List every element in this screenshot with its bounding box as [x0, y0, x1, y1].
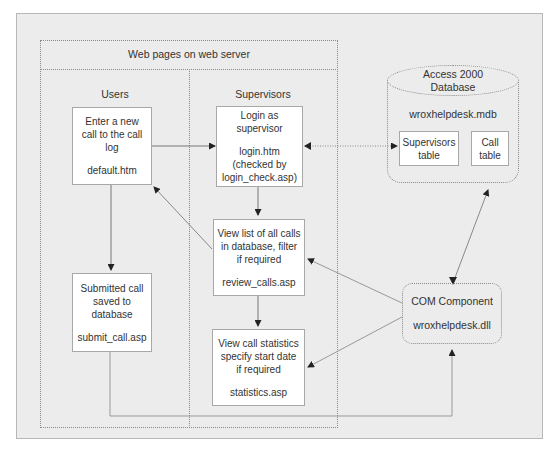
database-file: wroxhelpdesk.mdb — [387, 108, 519, 121]
supervisors-table-line-1: Supervisors — [403, 136, 456, 149]
database-title-line-2: Database — [387, 81, 519, 94]
database-title-line-1: Access 2000 — [387, 68, 519, 81]
call-table-line-1: Call — [481, 136, 498, 149]
login-htm-label: login.htm — [239, 145, 280, 158]
review-calls-asp-label: review_calls.asp — [222, 276, 295, 289]
com-component-title: COM Component — [402, 295, 502, 308]
submitted-call-line-1: Submitted call — [81, 282, 144, 295]
statistics-line-3: if required — [236, 363, 280, 376]
com-component-box — [402, 283, 502, 344]
enter-call-line-1: Enter a new — [85, 115, 138, 128]
call-table-line-2: table — [479, 149, 501, 162]
submit-call-asp-label: submit_call.asp — [78, 331, 147, 344]
login-line-1: Login as — [241, 109, 279, 122]
enter-call-line-2: call to the call — [82, 128, 143, 141]
supervisors-table-box: Supervisors table — [399, 131, 459, 166]
database-title: Access 2000 Database — [387, 68, 519, 94]
enter-call-line-3: log — [105, 141, 118, 154]
default-htm-label: default.htm — [87, 164, 136, 177]
call-table-box: Call table — [471, 131, 509, 166]
review-calls-box: View list of all calls in database, filt… — [213, 219, 305, 296]
statistics-asp-label: statistics.asp — [230, 386, 287, 399]
review-line-2: in database, filter — [221, 240, 297, 253]
review-line-1: View list of all calls — [217, 227, 300, 240]
login-box: Login as supervisor login.htm (checked b… — [216, 106, 303, 187]
login-note-line-1: (checked by — [233, 158, 287, 171]
enter-call-box: Enter a new call to the call log default… — [72, 107, 152, 185]
supervisors-table-line-2: table — [418, 149, 440, 162]
login-line-2: supervisor — [236, 122, 282, 135]
com-component-file: wroxhelpdesk.dll — [402, 319, 502, 332]
statistics-line-2: specify start date — [221, 350, 297, 363]
statistics-line-1: View call statistics — [218, 337, 298, 350]
login-note-line-2: login_check.asp) — [222, 171, 297, 184]
submitted-call-line-2: saved to — [93, 295, 131, 308]
review-line-3: if required — [237, 253, 281, 266]
submitted-call-box: Submitted call saved to database submit_… — [72, 273, 152, 352]
statistics-box: View call statistics specify start date … — [212, 329, 305, 406]
submitted-call-line-3: database — [91, 308, 132, 321]
